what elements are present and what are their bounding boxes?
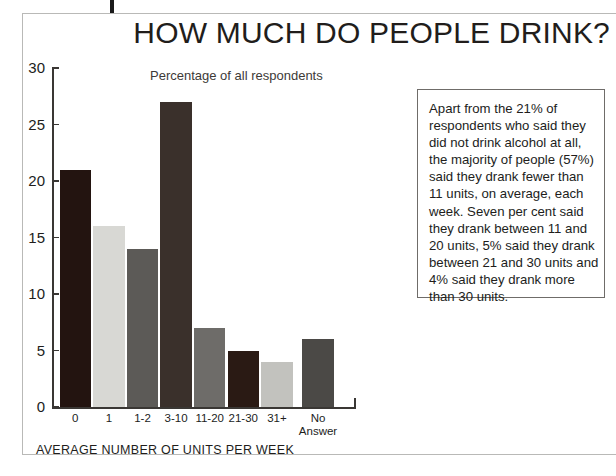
bar-1 [93, 226, 125, 407]
bar-0 [60, 170, 92, 407]
y-axis-tick-label: 20 [11, 173, 45, 188]
plot-area [52, 68, 355, 407]
bar-1-2 [127, 249, 159, 407]
bar-11-20 [194, 328, 226, 407]
x-axis-line [52, 407, 356, 409]
y-axis-tick-label: 15 [11, 230, 45, 245]
bar-no-answer [302, 339, 334, 407]
annotation-box: Apart from the 21% of respondents who sa… [417, 89, 605, 298]
y-axis-tick-label: 30 [11, 60, 45, 75]
x-axis-tick-label: NoAnswer [288, 412, 348, 438]
bar-21-30 [228, 351, 260, 408]
y-axis-tick-label: 0 [11, 399, 45, 414]
y-axis-tick-label: 10 [11, 286, 45, 301]
bar-31- [261, 362, 293, 407]
bar-3-10 [160, 102, 192, 407]
y-axis-tick-label: 5 [11, 343, 45, 358]
y-axis-tick-label: 25 [11, 117, 45, 132]
annotation-text: Apart from the 21% of respondents who sa… [429, 100, 601, 305]
x-axis-title: AVERAGE NUMBER OF UNITS PER WEEK [36, 443, 294, 457]
